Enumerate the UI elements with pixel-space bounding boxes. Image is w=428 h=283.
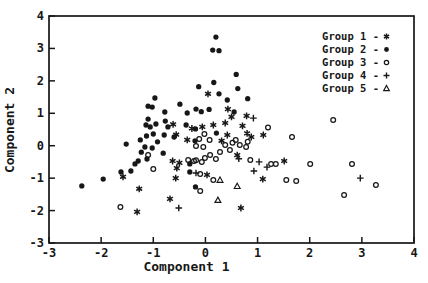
x-axis-tick-label: 1 bbox=[254, 246, 261, 260]
data-point bbox=[281, 158, 287, 165]
x-axis-title: Component 1 bbox=[143, 259, 229, 274]
data-point bbox=[225, 97, 230, 102]
y-axis-tick-label: -3 bbox=[30, 236, 44, 250]
data-point bbox=[173, 175, 179, 182]
data-point bbox=[161, 151, 166, 156]
data-point bbox=[284, 178, 289, 183]
x-axis-tick-label: 2 bbox=[306, 246, 313, 260]
data-point bbox=[238, 205, 244, 212]
data-point bbox=[244, 145, 249, 150]
data-point bbox=[153, 121, 158, 126]
data-point bbox=[187, 169, 192, 174]
data-point bbox=[193, 106, 198, 111]
data-point bbox=[148, 124, 153, 129]
data-point bbox=[245, 139, 250, 144]
data-point bbox=[357, 175, 364, 182]
data-point bbox=[237, 143, 242, 148]
data-point bbox=[170, 121, 176, 128]
data-point bbox=[136, 185, 142, 192]
data-point bbox=[217, 177, 223, 182]
data-point bbox=[193, 184, 198, 189]
data-point bbox=[210, 47, 215, 52]
data-point bbox=[163, 118, 168, 123]
x-axis-tick-label: 0 bbox=[202, 246, 209, 260]
data-point bbox=[198, 189, 203, 194]
data-point bbox=[176, 205, 183, 212]
x-axis-tick-label: 4 bbox=[410, 246, 417, 260]
series-group-3 bbox=[118, 118, 378, 210]
y-axis-tick-label: 4 bbox=[37, 9, 44, 23]
data-point bbox=[251, 168, 258, 175]
series-group-1 bbox=[120, 90, 287, 215]
legend-label: Group 5 - bbox=[322, 82, 379, 94]
legend-open-circle-icon bbox=[384, 60, 388, 64]
legend-plus-icon bbox=[384, 73, 390, 79]
y-axis: -3-2-101234 bbox=[30, 9, 55, 250]
data-point bbox=[202, 132, 207, 137]
data-point bbox=[224, 132, 230, 139]
data-point bbox=[152, 95, 157, 100]
data-point bbox=[218, 150, 223, 155]
legend-item: Group 4 - bbox=[322, 69, 389, 81]
data-point bbox=[151, 131, 156, 136]
legend-item: Group 3 - bbox=[322, 56, 389, 68]
data-point bbox=[210, 122, 216, 129]
legend-label: Group 1 - bbox=[322, 30, 379, 42]
data-point bbox=[162, 109, 167, 114]
data-point bbox=[374, 183, 379, 188]
legend-item: Group 1 - bbox=[322, 30, 389, 42]
scatter-plot-figure: -3-2-101234-3-2-101234Component 1Compone… bbox=[0, 0, 428, 283]
legend: Group 1 -Group 2 -Group 3 -Group 4 -Grou… bbox=[322, 30, 389, 94]
data-point bbox=[139, 150, 144, 155]
data-point bbox=[177, 102, 182, 107]
legend-item: Group 2 - bbox=[322, 43, 389, 55]
data-point bbox=[240, 123, 246, 130]
x-axis-tick-label: -2 bbox=[94, 246, 108, 260]
x-axis-tick-label: -1 bbox=[146, 246, 160, 260]
y-axis-tick-label: -2 bbox=[30, 204, 44, 218]
data-point bbox=[155, 139, 160, 144]
data-point bbox=[228, 148, 233, 153]
data-point bbox=[245, 96, 250, 101]
data-point bbox=[199, 109, 204, 114]
data-point bbox=[216, 91, 221, 96]
legend-open-triangle-icon bbox=[384, 86, 390, 91]
y-axis-title: Component 2 bbox=[2, 87, 17, 173]
data-point bbox=[250, 115, 257, 122]
y-axis-tick-label: 1 bbox=[37, 106, 44, 120]
data-point bbox=[185, 110, 190, 115]
data-point bbox=[142, 144, 147, 149]
data-point bbox=[211, 178, 216, 183]
data-point bbox=[234, 72, 239, 77]
data-point bbox=[206, 107, 211, 112]
series-group-5 bbox=[215, 177, 240, 202]
data-point bbox=[234, 183, 240, 188]
data-point bbox=[235, 86, 240, 91]
data-point bbox=[248, 158, 253, 163]
y-axis-tick-label: 2 bbox=[37, 74, 44, 88]
data-point bbox=[205, 90, 211, 97]
data-point bbox=[213, 34, 218, 39]
data-point bbox=[199, 160, 204, 165]
data-point bbox=[145, 116, 150, 121]
data-point bbox=[290, 135, 295, 140]
data-point bbox=[79, 183, 84, 188]
data-point bbox=[162, 132, 167, 137]
data-point bbox=[167, 196, 173, 203]
data-point bbox=[294, 179, 299, 184]
data-point bbox=[225, 106, 231, 113]
data-point bbox=[231, 109, 236, 114]
data-point bbox=[308, 162, 313, 167]
data-point bbox=[342, 193, 347, 198]
legend-item: Group 5 - bbox=[322, 82, 389, 94]
data-point bbox=[186, 158, 191, 163]
data-point bbox=[260, 176, 266, 183]
data-point bbox=[193, 126, 198, 131]
data-point bbox=[144, 133, 149, 138]
data-point bbox=[197, 137, 202, 142]
data-point bbox=[124, 141, 129, 146]
legend-label: Group 3 - bbox=[322, 56, 379, 68]
data-point bbox=[134, 209, 140, 216]
data-point bbox=[171, 134, 176, 139]
data-point bbox=[230, 140, 235, 145]
